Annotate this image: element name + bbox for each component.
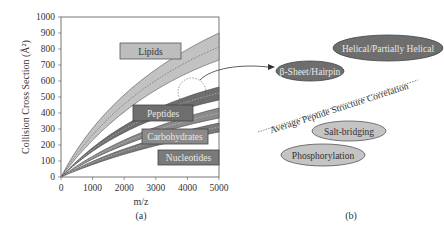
arrowhead-icon	[268, 64, 275, 70]
y-tick-400: 400	[41, 108, 56, 118]
peptides-label: Peptides	[147, 109, 179, 119]
x-tick-2000: 2000	[115, 183, 134, 193]
x-tick-0: 0	[59, 183, 64, 193]
y-tick-600: 600	[41, 76, 56, 86]
y-axis-title: Collision Cross Section (Å²)	[20, 40, 32, 154]
beta-sheet-label: β-Sheet/Hairpin	[280, 67, 341, 77]
y-tick-500: 500	[41, 92, 56, 102]
lipids-label: Lipids	[138, 47, 163, 57]
nucleotides-label: Nucleotides	[166, 153, 212, 163]
y-tick-labels: 0 100 200 300 400 500 600 700 800 900 10…	[36, 12, 55, 182]
phosphorylation-label: Phosphorylation	[292, 151, 355, 161]
y-tick-300: 300	[41, 124, 56, 134]
figure: Lipids Peptides Carbohydrates Nucleotide…	[0, 0, 444, 235]
x-tick-4000: 4000	[178, 183, 197, 193]
carbohydrates-label: Carbohydrates	[147, 132, 203, 142]
helical-label: Helical/Partially Helical	[342, 44, 434, 54]
y-tick-0: 0	[50, 172, 55, 182]
y-tick-200: 200	[41, 140, 56, 150]
x-axis-title: m/z	[134, 196, 150, 207]
y-tick-700: 700	[41, 60, 56, 70]
y-axis	[58, 17, 61, 177]
y-tick-1000: 1000	[36, 12, 55, 22]
x-tick-3000: 3000	[146, 183, 165, 193]
y-tick-900: 900	[41, 28, 56, 38]
salt-bridging-label: Salt-bridging	[324, 127, 374, 137]
panel-a: Lipids Peptides Carbohydrates Nucleotide…	[20, 12, 275, 222]
y-tick-100: 100	[41, 156, 56, 166]
x-tick-5000: 5000	[210, 183, 229, 193]
x-tick-1000: 1000	[83, 183, 102, 193]
panel-a-label: (a)	[135, 210, 146, 222]
y-tick-800: 800	[41, 44, 56, 54]
x-axis	[61, 177, 219, 180]
panel-b-label: (b)	[345, 210, 357, 222]
panel-b: Helical/Partially Helical β-Sheet/Hairpi…	[258, 35, 443, 222]
x-tick-labels: 0 1000 2000 3000 4000 5000	[59, 183, 229, 193]
